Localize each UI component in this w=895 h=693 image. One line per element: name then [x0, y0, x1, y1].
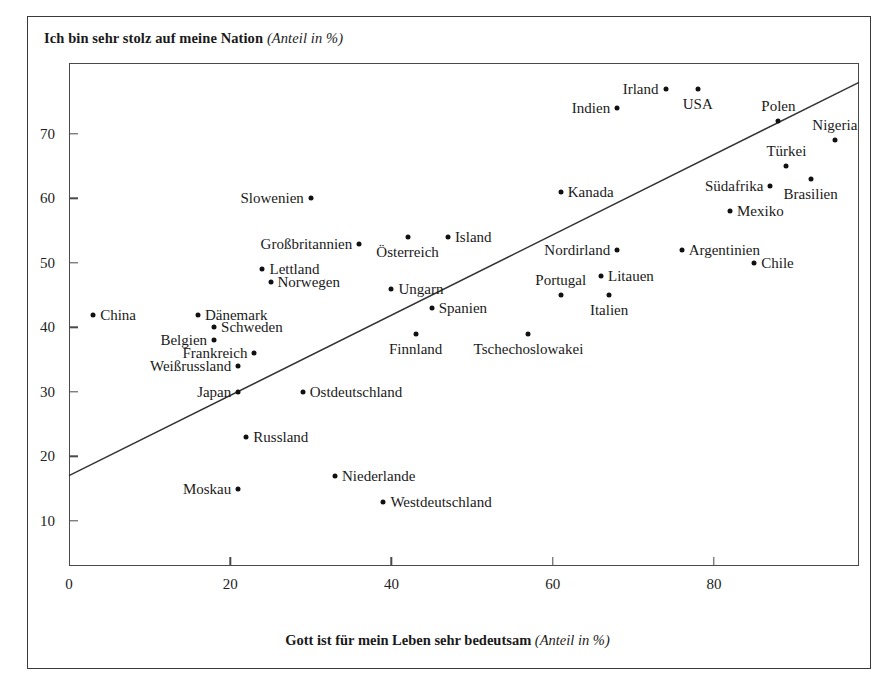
trendline-layer — [0, 0, 895, 693]
x-axis-caption-bold: Gott ist für mein Leben sehr bedeutsam — [285, 632, 531, 648]
figure-page: Ich bin sehr stolz auf meine Nation (Ant… — [0, 0, 895, 693]
x-axis-caption: Gott ist für mein Leben sehr bedeutsam (… — [0, 632, 895, 649]
x-axis-caption-italic: (Anteil in %) — [535, 632, 610, 648]
regression-trendline — [69, 82, 859, 475]
